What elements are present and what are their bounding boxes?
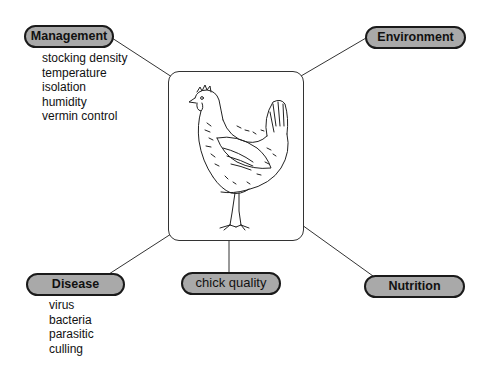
diagram-canvas: Management stocking density temperature …	[0, 0, 486, 378]
management-item: temperature	[42, 66, 127, 81]
management-item: isolation	[42, 80, 127, 95]
disease-item: parasitic	[49, 327, 94, 342]
nutrition-node: Nutrition	[364, 275, 465, 298]
management-item: humidity	[42, 95, 127, 110]
management-factor-list: stocking density temperature isolation h…	[42, 51, 127, 124]
management-label: Management	[31, 29, 107, 43]
connector-disease	[109, 234, 171, 274]
disease-item: virus	[49, 298, 94, 313]
management-item: vermin control	[42, 109, 127, 124]
disease-item: bacteria	[49, 313, 94, 328]
management-item: stocking density	[42, 51, 127, 66]
disease-node: Disease	[26, 273, 125, 296]
environment-node: Environment	[365, 26, 466, 49]
disease-label: Disease	[52, 277, 99, 291]
hen-illustration-icon	[177, 78, 297, 236]
connector-environment	[301, 38, 366, 76]
connector-nutrition	[302, 225, 373, 276]
environment-label: Environment	[377, 30, 453, 44]
management-node: Management	[24, 25, 114, 48]
disease-item: culling	[49, 342, 94, 357]
nutrition-label: Nutrition	[388, 279, 440, 293]
disease-factor-list: virus bacteria parasitic culling	[49, 298, 94, 356]
chick-quality-label: chick quality	[196, 275, 267, 290]
hen-image-box	[168, 71, 304, 241]
chick-quality-node: chick quality	[181, 272, 281, 295]
